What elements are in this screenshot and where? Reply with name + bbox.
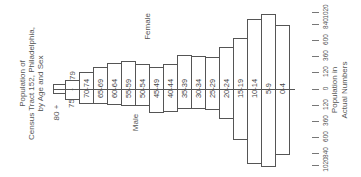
x-axis-title: Population in Actual Numbers — [330, 50, 350, 130]
axis-tick — [312, 153, 319, 154]
male-label: Male — [131, 108, 140, 138]
age-label-80-plus: 80 + — [52, 101, 61, 125]
population-pyramid-chart: 70-7465-6960-6455-5950-5445-4940-4435-39… — [0, 0, 361, 177]
axis-tick-label: 1020 — [322, 153, 329, 177]
axis-tick — [312, 40, 319, 41]
axis-tick — [312, 137, 319, 138]
axis-tick — [312, 24, 319, 25]
axis-tick — [312, 72, 319, 73]
age-label-79: 79 — [68, 66, 77, 86]
axis-tick — [312, 105, 319, 106]
chart-title: Population of Census Tract 152, Philadel… — [18, 9, 45, 159]
axis-tick — [312, 165, 319, 166]
axis-tick — [312, 121, 319, 122]
axis-tick — [312, 56, 319, 57]
female-label: Female — [143, 7, 152, 47]
axis-tick — [312, 89, 319, 90]
center-axis-line — [53, 89, 295, 90]
axis-tick — [312, 12, 319, 13]
